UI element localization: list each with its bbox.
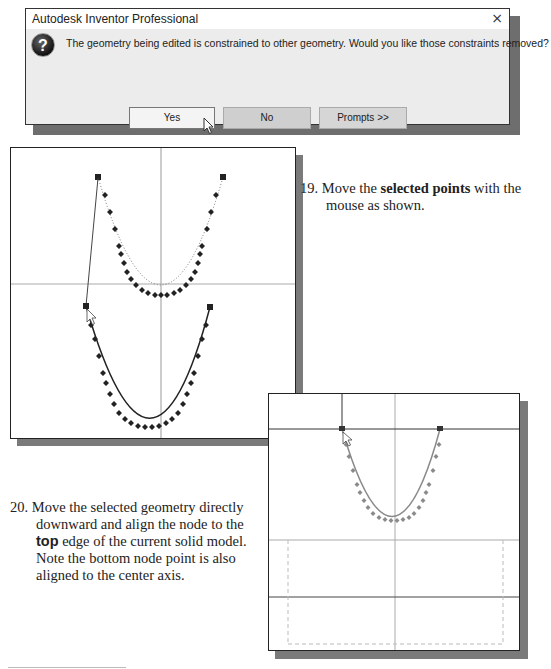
dialog-title: Autodesk Inventor Professional (26, 9, 509, 29)
prompts-button[interactable]: Prompts >> (319, 107, 407, 129)
no-button[interactable]: No (223, 107, 311, 129)
cutoff-text (40, 0, 340, 5)
spline-points-bottom (88, 322, 209, 430)
footnote-divider (8, 667, 126, 668)
close-icon[interactable]: × (491, 10, 503, 26)
question-icon: ? (31, 33, 55, 57)
step-20: 20. Move the selected geometry directly … (10, 499, 260, 584)
dialog-message: The geometry being edited is constrained… (66, 37, 549, 49)
step-19: 19. Move the selected points with the mo… (300, 180, 551, 214)
mouse-cursor-icon (203, 117, 215, 135)
spline-points-aligned (344, 442, 442, 523)
sketch-figure-2 (269, 394, 520, 651)
sketch-canvas-2[interactable] (268, 393, 520, 651)
sketch-canvas-1[interactable] (10, 147, 296, 439)
sketch-figure-1 (11, 148, 296, 439)
constraint-dialog: Autodesk Inventor Professional × ? The g… (25, 8, 510, 125)
mouse-cursor-icon (87, 309, 96, 325)
